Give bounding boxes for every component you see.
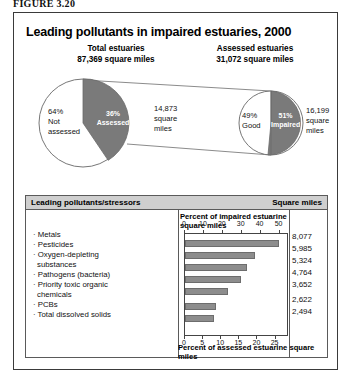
bar-pcbs	[185, 303, 216, 310]
list-item: · Pathogens (bacteria)	[33, 270, 178, 280]
not-assessed-word1: Not	[48, 117, 90, 127]
bar-pathogens-bacteria	[185, 276, 241, 283]
list-item: · PCBs	[33, 300, 178, 310]
good-word: Good	[242, 121, 269, 131]
value-priority-toxic-organic-chemicals: 3,652	[292, 280, 312, 290]
impaired-sqmi-unit1: square	[306, 116, 342, 126]
value-pathogens-bacteria: 4,764	[292, 268, 312, 278]
good-sqmi-unit1: square	[154, 114, 194, 124]
bar-priority-toxic-organic-chemicals	[185, 288, 228, 295]
tick-label-top-30: 30	[237, 220, 245, 227]
good-slice-label: 49% Good	[242, 111, 269, 131]
not-assessed-label: 64% Not assessed	[48, 107, 90, 138]
impaired-slice-label: 51% Impaired	[271, 111, 300, 129]
good-percent: 49%	[242, 111, 269, 121]
bar-oxygen-depleting-substances	[185, 264, 247, 271]
list-item: substances	[33, 260, 178, 270]
not-assessed-percent: 64%	[48, 107, 90, 117]
column-header-pollutants: Leading pollutants/stressors	[31, 198, 140, 207]
figure-label: FIGURE 3.20	[13, 0, 75, 9]
value-pesticides: 5,985	[292, 244, 312, 254]
table-header-row: Leading pollutants/stressors Square mile…	[26, 196, 327, 210]
table-divider-left	[178, 210, 179, 358]
bar-total-dissolved-solids	[185, 315, 214, 322]
axis-label-bottom: Percent of assessed estuarine square mil…	[178, 343, 328, 361]
bar-plot-area	[184, 233, 288, 336]
value-pcbs: 2,622	[292, 295, 312, 305]
assessed-word: Assessed	[96, 118, 130, 127]
good-square-miles-callout: 14,873 square miles	[154, 104, 194, 135]
assessed-slice-label: 36% Assessed	[96, 109, 130, 127]
tick-label-top-0: 0	[182, 220, 186, 227]
tick-label-top-40: 40	[256, 220, 264, 227]
list-item: · Oxygen-depleting	[33, 250, 178, 260]
table-divider-right	[289, 210, 290, 358]
chart-title: Leading pollutants in impaired estuaries…	[26, 25, 291, 39]
good-sqmi-value: 14,873	[154, 104, 194, 114]
value-oxygen-depleting-substances: 5,324	[292, 256, 312, 266]
column-header-square-miles: Square miles	[272, 198, 322, 207]
axis-ticks-top: 01020304050	[184, 221, 288, 233]
tick-label-top-10: 10	[199, 220, 207, 227]
table-body: Percent of impaired estuarine square mil…	[26, 210, 327, 358]
good-sqmi-unit2: miles	[154, 124, 194, 134]
impaired-sqmi-value: 16,199	[306, 106, 342, 116]
value-metals: 8,077	[292, 232, 312, 242]
chart-frame: Leading pollutants in impaired estuaries…	[13, 12, 338, 370]
bar-metals	[185, 240, 279, 247]
bar-pesticides	[185, 252, 255, 259]
list-item: · Metals	[33, 230, 178, 240]
pollutant-label-list: · Metals· Pesticides· Oxygen-depleting s…	[33, 230, 178, 320]
impaired-sqmi-unit2: miles	[306, 126, 342, 136]
assessed-percent: 36%	[96, 109, 130, 118]
value-total-dissolved-solids: 2,494	[292, 307, 312, 317]
list-item: · Pesticides	[33, 240, 178, 250]
tick-label-top-50: 50	[275, 220, 283, 227]
tick-label-top-20: 20	[218, 220, 226, 227]
list-item: · Priority toxic organic	[33, 280, 178, 290]
impaired-word: Impaired	[271, 120, 300, 129]
list-item: chemicals	[33, 290, 178, 300]
list-item: · Total dissolved solids	[33, 310, 178, 320]
impaired-percent: 51%	[271, 111, 300, 120]
not-assessed-word2: assessed	[48, 127, 90, 137]
pollutants-table: Leading pollutants/stressors Square mile…	[25, 195, 328, 358]
impaired-square-miles-callout: 16,199 square miles	[306, 106, 342, 137]
pie-section: Total estuaries 87,369 square miles Asse…	[14, 43, 339, 183]
